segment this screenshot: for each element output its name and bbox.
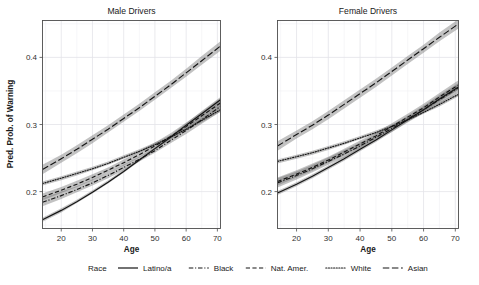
x-tick-label: 70 — [451, 234, 460, 243]
y-tick-label: 0.3 — [261, 121, 273, 130]
y-tick-label: 0.4 — [261, 53, 273, 62]
panel-title: Male Drivers — [107, 6, 155, 16]
x-axis-title: Age — [124, 245, 140, 254]
legend-label-nat-amer: Nat. Amer. — [271, 264, 308, 273]
panel-title: Female Drivers — [339, 6, 397, 16]
legend-label-latino-a: Latino/a — [143, 264, 172, 273]
legend: RaceLatino/aBlackNat. Amer.WhiteAsian — [88, 264, 428, 273]
x-tick-label: 20 — [57, 234, 66, 243]
x-tick-label: 50 — [387, 234, 396, 243]
y-tick-label: 0.2 — [261, 188, 273, 197]
legend-label-white: White — [351, 264, 372, 273]
y-tick-label: 0.2 — [26, 188, 38, 197]
x-tick-label: 20 — [292, 234, 301, 243]
panel-female-drivers: 203040506070Female DriversAge — [278, 6, 461, 254]
y-tick-label: 0.3 — [26, 121, 38, 130]
x-tick-label: 30 — [88, 234, 97, 243]
x-tick-label: 40 — [119, 234, 128, 243]
panel-male-drivers: 203040506070Male DriversAge — [43, 6, 223, 254]
x-axis-title: Age — [360, 245, 376, 254]
y-tick-label: 0.4 — [26, 53, 38, 62]
x-tick-label: 60 — [182, 234, 191, 243]
legend-label-asian: Asian — [408, 264, 428, 273]
x-tick-label: 60 — [419, 234, 428, 243]
x-tick-label: 30 — [324, 234, 333, 243]
faceted-line-chart: 203040506070Male DriversAge203040506070F… — [0, 0, 479, 285]
x-tick-label: 70 — [213, 234, 222, 243]
chart-figure: 203040506070Male DriversAge203040506070F… — [0, 0, 479, 285]
x-tick-label: 40 — [356, 234, 365, 243]
legend-title: Race — [88, 264, 107, 273]
y-axis-title: Pred. Prob. of Warning — [6, 80, 15, 168]
x-tick-label: 50 — [150, 234, 159, 243]
legend-label-black: Black — [214, 264, 235, 273]
